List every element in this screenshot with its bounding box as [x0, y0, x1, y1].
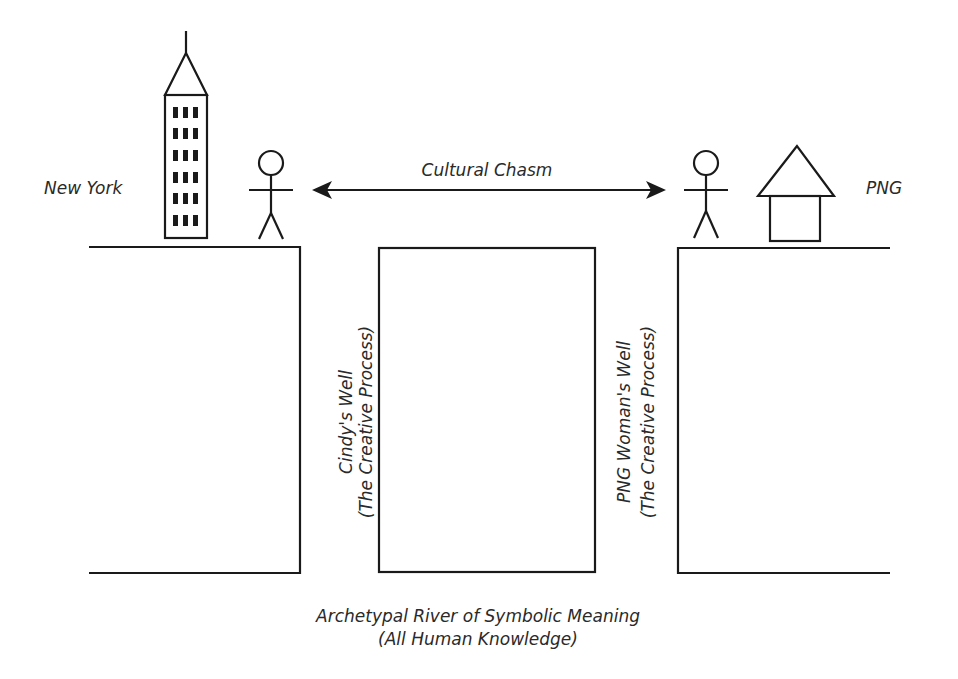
right-well-label-1: PNG Woman's Well: [614, 341, 634, 503]
window-icon: [173, 128, 178, 139]
png-label: PNG: [866, 178, 902, 198]
window-icon: [183, 107, 188, 118]
window-icon: [193, 172, 198, 183]
window-icon: [183, 215, 188, 226]
window-icon: [173, 150, 178, 161]
right-well-label-2: (The Creative Process): [638, 326, 658, 519]
window-icon: [193, 215, 198, 226]
window-icon: [183, 150, 188, 161]
skyscraper-icon: [165, 31, 207, 238]
middle-block: [379, 248, 595, 572]
river-label-2: (All Human Knowledge): [378, 629, 578, 649]
chasm-label: Cultural Chasm: [422, 160, 553, 180]
window-icon: [183, 128, 188, 139]
window-icon: [193, 193, 198, 204]
window-icon: [173, 107, 178, 118]
window-icon: [183, 172, 188, 183]
window-icon: [183, 193, 188, 204]
cultural-chasm-diagram: New York PNG Cultural Chasm Cindy's Well…: [0, 0, 958, 679]
window-icon: [173, 215, 178, 226]
double-arrow-icon: [312, 181, 666, 199]
right-cliff: [678, 248, 890, 573]
left-person-icon: [249, 151, 293, 239]
window-icon: [173, 172, 178, 183]
new-york-label: New York: [44, 178, 123, 198]
left-cliff: [89, 247, 300, 573]
window-icon: [193, 107, 198, 118]
river-label-1: Archetypal River of Symbolic Meaning: [315, 606, 640, 626]
window-icon: [173, 193, 178, 204]
right-person-icon: [684, 151, 728, 238]
house-icon: [758, 146, 834, 241]
left-well-label-1: Cindy's Well: [336, 370, 356, 474]
window-icon: [193, 150, 198, 161]
left-well-label-2: (The Creative Process): [356, 326, 376, 519]
window-icon: [193, 128, 198, 139]
